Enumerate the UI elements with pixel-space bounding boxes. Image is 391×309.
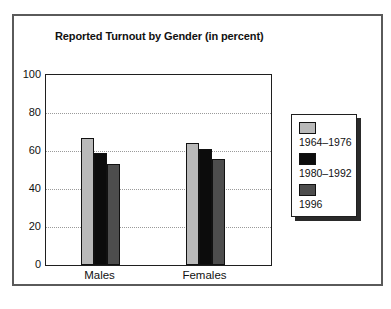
chart-frame: Reported Turnout by Gender (in percent) … [12, 14, 383, 286]
legend-item-1980-1992: 1980–1992 [299, 153, 354, 180]
y-tick-label-60: 60 [15, 143, 41, 157]
y-tick-label-20: 20 [15, 219, 41, 233]
legend-swatch-1996 [299, 184, 316, 196]
legend-swatch-1964-1976 [299, 122, 316, 134]
legend-items: 1964–19761980–19921996 [299, 122, 354, 211]
y-tick-label-100: 100 [15, 67, 41, 81]
legend-item-1964-1976: 1964–1976 [299, 122, 354, 149]
chart-title: Reported Turnout by Gender (in percent) [55, 30, 264, 42]
bar-males-1996 [107, 164, 120, 265]
legend-label-1996: 1996 [299, 198, 354, 211]
bar-females-1996 [212, 159, 225, 265]
legend-label-1964-1976: 1964–1976 [299, 136, 354, 149]
y-tick-label-40: 40 [15, 181, 41, 195]
gridline-60 [46, 151, 271, 152]
bar-males-1980-1992 [94, 153, 107, 265]
legend-item-1996: 1996 [299, 184, 354, 211]
bar-males-1964-1976 [81, 138, 94, 265]
plot-area [45, 74, 272, 266]
gridline-80 [46, 113, 271, 114]
legend-swatch-1980-1992 [299, 153, 316, 165]
gridline-20 [46, 227, 271, 228]
y-tick-label-0: 0 [15, 257, 41, 271]
legend: 1964–19761980–19921996 [291, 114, 357, 217]
x-category-label-males: Males [65, 269, 135, 281]
gridline-40 [46, 189, 271, 190]
legend-label-1980-1992: 1980–1992 [299, 167, 354, 180]
y-tick-label-80: 80 [15, 105, 41, 119]
bar-females-1964-1976 [186, 143, 199, 265]
x-category-label-females: Females [170, 269, 240, 281]
bar-females-1980-1992 [199, 149, 212, 265]
